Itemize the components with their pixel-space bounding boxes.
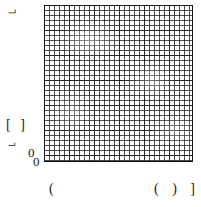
y-axis-tick-label-lower: ⌐: [8, 138, 16, 152]
y-axis-top-label: ⌐: [8, 5, 16, 20]
x-axis-tick-label-right: ( ) ]: [154, 182, 200, 196]
scan-noise-overlay: [44, 5, 193, 162]
y-axis-tick-label-upper: [ ]: [6, 118, 28, 132]
plot-grid-area: [44, 5, 193, 162]
x-axis-origin-label: 0: [33, 155, 40, 168]
figure-canvas: ⌐ [ ] ⌐ 0 0 ( ( ) ]: [0, 0, 201, 207]
x-axis-tick-label-left: (: [49, 182, 54, 196]
